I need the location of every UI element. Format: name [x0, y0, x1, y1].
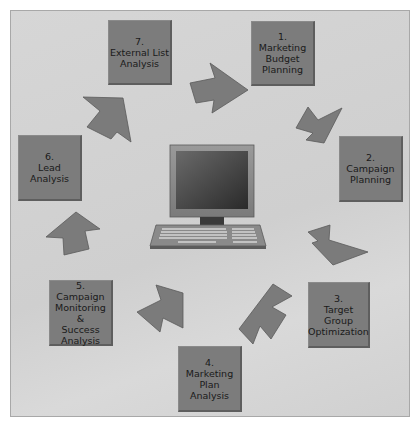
step-4-box: 4.Marketing Plan Analysis: [178, 346, 242, 412]
arrow-icon: [137, 285, 183, 332]
step-3-box: 3.Target Group Optimization: [308, 282, 370, 348]
step-number: 5.: [50, 280, 111, 291]
step-label: Campaign Planning: [346, 163, 394, 185]
step-number: 2.: [346, 152, 394, 163]
step-number: 7.: [110, 36, 169, 47]
step-1-box: 1.Marketing Budget Planning: [251, 21, 315, 86]
arrow-icon: [296, 107, 342, 143]
step-label: Lead Analysis: [30, 162, 69, 184]
arrow-icon: [46, 212, 100, 255]
arrow-icon: [239, 284, 292, 344]
step-number: 1.: [259, 31, 306, 42]
step-2-box: 2.Campaign Planning: [339, 136, 403, 202]
step-number: 3.: [308, 293, 369, 304]
step-label: Marketing Plan Analysis: [186, 368, 233, 401]
arrow-icon: [83, 97, 131, 142]
step-5-box: 5.Campaign Monitoring & Success Analysis: [49, 280, 113, 346]
arrow-icon: [190, 63, 248, 113]
step-number: 4.: [186, 357, 233, 368]
computer-icon: [148, 143, 268, 253]
step-label: Marketing Budget Planning: [259, 42, 306, 75]
step-6-box: 6.Lead Analysis: [18, 135, 82, 201]
step-7-box: 7.External List Analysis: [108, 20, 172, 85]
step-number: 6.: [30, 151, 69, 162]
arrow-icon: [308, 225, 368, 265]
step-label: Campaign Monitoring & Success Analysis: [50, 291, 111, 346]
step-label: Target Group Optimization: [308, 304, 369, 337]
step-label: External List Analysis: [110, 47, 169, 69]
